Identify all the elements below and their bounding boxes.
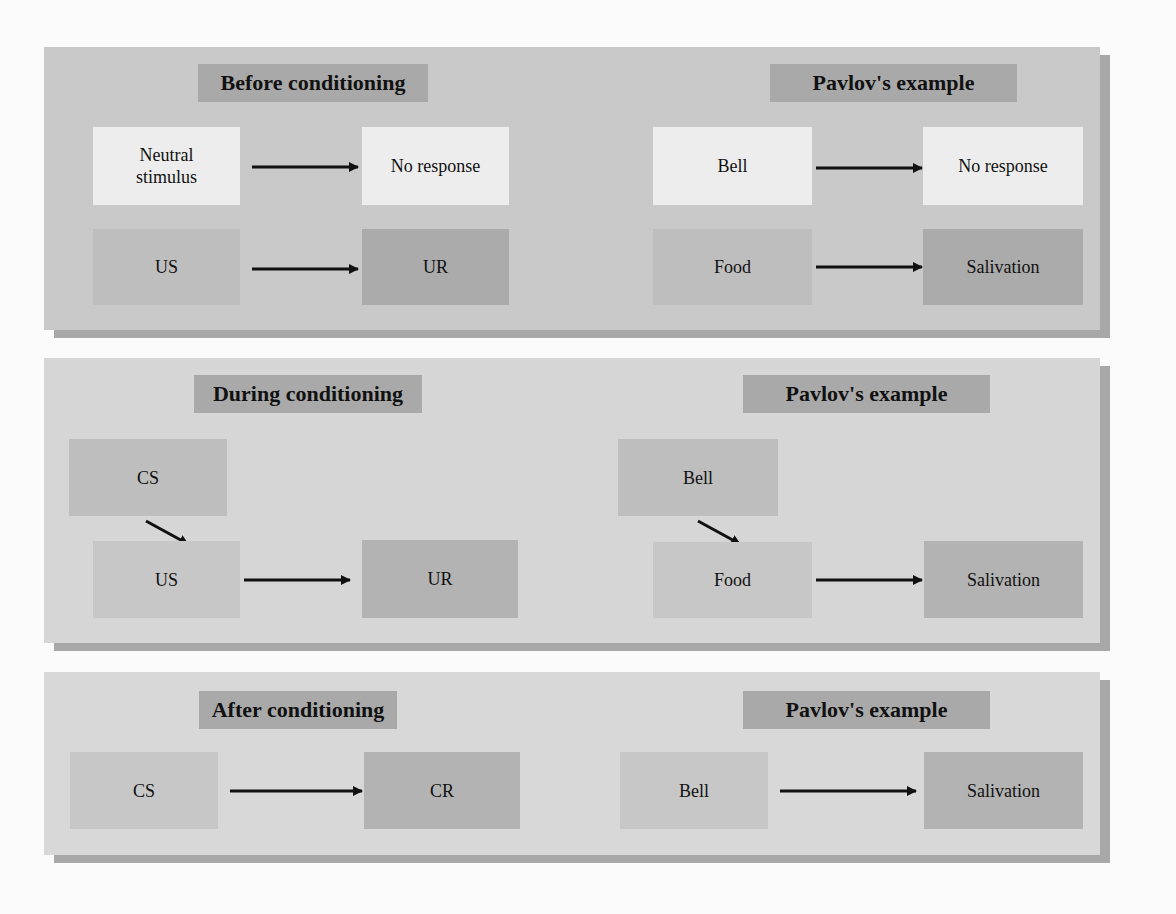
box-label: UR <box>427 568 452 590</box>
before-conditioning-panel: Before conditioning Pavlov's example Neu… <box>44 47 1100 330</box>
cr-box: CR <box>364 752 520 829</box>
arrow-right-icon <box>228 781 364 801</box>
box-label: Food <box>714 256 751 278</box>
box-label: Bell <box>718 155 748 177</box>
box-label: CR <box>430 780 454 802</box>
bell-box: Bell <box>620 752 768 829</box>
pavlov-example-title: Pavlov's example <box>743 375 990 413</box>
box-label: US <box>155 256 178 278</box>
salivation-box: Salivation <box>923 229 1083 305</box>
cs-box: CS <box>70 752 218 829</box>
bell-box: Bell <box>618 439 778 516</box>
box-label: Bell <box>679 780 709 802</box>
box-label: US <box>155 569 178 591</box>
us-box: US <box>93 229 240 305</box>
during-conditioning-panel: During conditioning Pavlov's example CS … <box>44 358 1100 643</box>
box-label: Salivation <box>967 569 1040 591</box>
after-conditioning-title: After conditioning <box>199 691 397 729</box>
box-label: CS <box>137 467 159 489</box>
neutral-stimulus-box: Neutral stimulus <box>93 127 240 205</box>
salivation-box: Salivation <box>924 752 1083 829</box>
us-box: US <box>93 541 240 618</box>
box-label: UR <box>423 256 448 278</box>
box-label: Neutral stimulus <box>122 144 212 188</box>
arrow-right-icon <box>242 570 352 590</box>
arrow-right-icon <box>814 257 924 277</box>
food-box: Food <box>653 229 812 305</box>
no-response-box: No response <box>923 127 1083 205</box>
ur-box: UR <box>362 540 518 618</box>
arrow-right-icon <box>778 781 918 801</box>
bell-box: Bell <box>653 127 812 205</box>
box-label: No response <box>391 155 480 177</box>
salivation-box: Salivation <box>924 541 1083 618</box>
arrow-right-icon <box>250 157 360 177</box>
during-conditioning-title: During conditioning <box>194 375 422 413</box>
no-response-box: No response <box>362 127 509 205</box>
cs-box: CS <box>69 439 227 516</box>
before-conditioning-title: Before conditioning <box>198 64 428 102</box>
box-label: Food <box>714 569 751 591</box>
box-label: Salivation <box>967 256 1040 278</box>
food-box: Food <box>653 542 812 618</box>
arrow-right-icon <box>814 158 924 178</box>
box-label: No response <box>958 155 1047 177</box>
ur-box: UR <box>362 229 509 305</box>
arrow-right-icon <box>814 570 924 590</box>
pavlov-example-title: Pavlov's example <box>770 64 1017 102</box>
after-conditioning-panel: After conditioning Pavlov's example CS C… <box>44 672 1100 855</box>
box-label: CS <box>133 780 155 802</box>
pavlov-example-title: Pavlov's example <box>743 691 990 729</box>
box-label: Bell <box>683 467 713 489</box>
box-label: Salivation <box>967 780 1040 802</box>
arrow-right-icon <box>250 259 360 279</box>
